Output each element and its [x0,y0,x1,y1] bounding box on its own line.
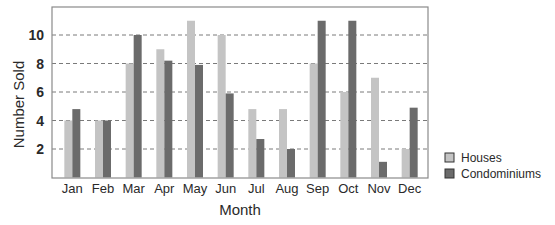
y-axis-label: Number Sold [10,61,27,149]
y-tick-label: 10 [28,27,44,43]
bar-condominiums-may [195,65,203,178]
x-tick-label: Jul [248,181,265,196]
bar-condominiums-sep [318,21,326,178]
bar-condominiums-oct [348,21,356,178]
x-tick-label: Jun [215,181,236,196]
bar-chart: 246810 JanFebMarAprMayJunJulAugSepOctNov… [0,0,555,225]
legend-label-houses: Houses [461,151,502,165]
y-tick-label: 4 [36,113,44,129]
x-tick-label: Feb [92,181,114,196]
y-tick-label: 6 [36,84,44,100]
legend-label-condominiums: Condominiums [461,167,541,181]
bar-houses-may [187,21,195,178]
legend-swatch-condominiums [445,169,454,178]
x-tick-label: Apr [154,181,175,196]
x-tick-label: May [183,181,208,196]
bar-condominiums-apr [164,61,172,178]
x-tick-label: Oct [338,181,359,196]
bar-condominiums-feb [103,121,111,178]
bar-condominiums-nov [379,162,387,178]
bar-condominiums-mar [134,35,142,178]
bar-houses-dec [402,149,410,178]
x-tick-label: Mar [122,181,145,196]
bar-houses-nov [371,78,379,178]
bar-houses-aug [279,109,287,177]
legend: HousesCondominiums [445,151,541,181]
bar-condominiums-jun [226,93,234,177]
x-tick-label: Sep [306,181,329,196]
bar-houses-sep [310,64,318,178]
bars [64,21,417,178]
x-axis-label: Month [219,201,261,218]
x-axis-ticks: JanFebMarAprMayJunJulAugSepOctNovDec [62,181,422,196]
y-axis-ticks: 246810 [28,27,44,157]
bar-houses-jan [64,121,72,178]
bar-condominiums-jul [256,139,264,177]
x-tick-label: Nov [367,181,391,196]
bar-condominiums-jan [72,109,80,177]
bar-houses-jul [248,109,256,177]
x-tick-label: Aug [275,181,298,196]
bar-houses-apr [156,49,164,177]
x-tick-label: Jan [62,181,83,196]
y-tick-label: 8 [36,56,44,72]
bar-houses-jun [218,35,226,178]
bar-houses-feb [95,121,103,178]
bar-condominiums-dec [410,108,418,178]
y-tick-label: 2 [36,141,44,157]
bar-houses-oct [340,92,348,178]
x-tick-label: Dec [398,181,422,196]
bar-houses-mar [126,64,134,178]
legend-swatch-houses [445,153,454,162]
bar-condominiums-aug [287,149,295,178]
